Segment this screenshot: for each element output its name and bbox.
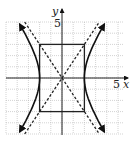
axes bbox=[6, 9, 128, 135]
hyperbola-graph: y 5 5 x bbox=[0, 0, 134, 142]
x-tick-label: 5 bbox=[113, 78, 120, 91]
y-tick-label: 5 bbox=[54, 17, 61, 30]
x-axis-label: x bbox=[123, 78, 130, 91]
